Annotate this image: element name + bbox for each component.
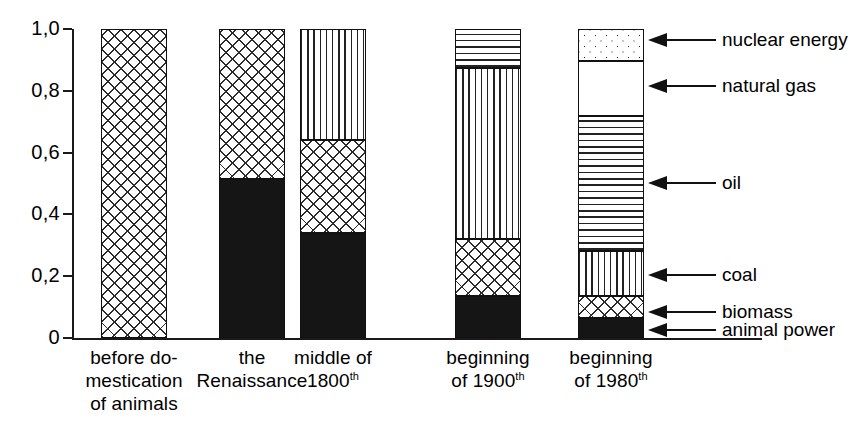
y-axis-tick-label: 0,8	[31, 80, 60, 100]
callout-leader-line	[666, 274, 716, 276]
bar-column	[300, 29, 366, 338]
callout-leader-line	[666, 39, 716, 41]
legend-label: nuclear energy	[722, 27, 848, 52]
y-axis-tick-label: 0,2	[31, 265, 60, 285]
x-axis-category-label: beginningof 1980th	[531, 346, 691, 392]
y-axis-tick-label: 0,4	[31, 203, 60, 223]
bar-segment-animal-power	[219, 179, 285, 338]
ordinal-suffix: th	[350, 370, 359, 382]
bar-segment-biomass	[455, 239, 521, 296]
bar-segment-nuclear-energy	[578, 29, 644, 61]
bar-segment-biomass	[219, 29, 285, 179]
callout-leader-line	[666, 85, 716, 87]
bar-column	[455, 29, 521, 338]
arrow-left-icon	[648, 176, 667, 190]
bar-segment-oil	[455, 29, 521, 68]
arrow-left-icon	[648, 305, 667, 319]
callout-leader-line	[666, 311, 716, 313]
legend-label: coal	[722, 262, 757, 287]
bar-segment-oil	[578, 116, 644, 252]
bar-segment-biomass	[300, 140, 366, 233]
bar-column	[578, 29, 644, 338]
x-label-line: of 1980th	[531, 369, 691, 392]
y-axis-line	[72, 29, 74, 339]
bar-segment-animal-power	[455, 296, 521, 338]
bar-segment-biomass	[101, 29, 167, 338]
ordinal-suffix: th	[638, 370, 647, 382]
bar-segment-coal	[300, 29, 366, 140]
x-label-line: of animals	[54, 392, 214, 415]
bar-segment-animal-power	[300, 233, 366, 338]
bar-segment-biomass	[578, 296, 644, 318]
x-label-line: middle of	[253, 346, 413, 369]
arrow-left-icon	[648, 33, 667, 47]
y-axis-tick	[63, 275, 72, 277]
y-axis-tick	[63, 337, 72, 339]
arrow-left-icon	[648, 79, 667, 93]
arrow-left-icon	[648, 323, 667, 337]
y-axis-tick	[63, 28, 72, 30]
y-axis-tick-label: 0	[49, 327, 60, 347]
bar-segment-animal-power	[578, 318, 644, 338]
y-axis-tick	[63, 213, 72, 215]
legend-label: oil	[722, 170, 741, 195]
callout-leader-line	[666, 182, 716, 184]
y-axis-tick	[63, 90, 72, 92]
x-axis-line	[72, 338, 762, 340]
bar-segment-coal	[578, 251, 644, 296]
ordinal-suffix: th	[515, 370, 524, 382]
callout-leader-line	[666, 329, 716, 331]
bar-column	[101, 29, 167, 338]
x-label-line: beginning	[531, 346, 691, 369]
legend-label: animal power	[722, 317, 835, 342]
arrow-left-icon	[648, 268, 667, 282]
legend-label: natural gas	[722, 73, 816, 98]
y-axis-tick-label: 0,6	[31, 142, 60, 162]
bar-segment-natural-gas	[578, 61, 644, 115]
chart-figure: 00,20,40,60,81,0 before do-mesticationof…	[0, 0, 859, 431]
x-axis-category-label: middle of1800th	[253, 346, 413, 392]
bar-column	[219, 29, 285, 338]
y-axis-tick	[63, 152, 72, 154]
x-label-line: 1800th	[253, 369, 413, 392]
y-axis-tick-label: 1,0	[31, 18, 60, 38]
bar-segment-coal	[455, 68, 521, 239]
